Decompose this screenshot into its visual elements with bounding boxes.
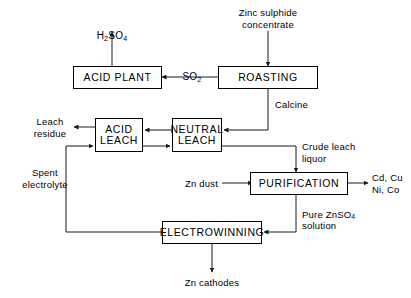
process-box-roasting[interactable]: ROASTING <box>218 66 318 89</box>
process-label-neutral-leach: NEUTRAL LEACH <box>170 124 223 147</box>
h2so4-sub-4: 4 <box>123 34 127 43</box>
stream-label-spent-electrolyte: Spent electrolyte <box>22 167 68 190</box>
stream-label-h2so4: H2SO4 <box>97 18 128 42</box>
h2so4-sub-2: 2 <box>104 34 108 43</box>
stream-label-crude-leach-liquor: Crude leach liquor <box>302 141 355 164</box>
process-label-acid-plant: ACID PLANT <box>84 72 152 83</box>
process-box-acid-plant[interactable]: ACID PLANT <box>73 66 162 89</box>
connector-purification-to-electrowinning <box>264 194 296 232</box>
connector-neutralleach-to-purification <box>222 146 296 172</box>
stream-label-calcine: Calcine <box>275 99 308 111</box>
stream-label-pure-znso4-solution: Pure ZnSO4 solution <box>302 197 355 232</box>
process-label-electrowinning: ELECTROWINNING <box>160 227 265 238</box>
pure-znso4-line2: solution <box>302 220 336 231</box>
stream-label-feed: Zinc sulphide concentrate <box>239 7 298 30</box>
process-box-electrowinning[interactable]: ELECTROWINNING <box>162 221 262 244</box>
process-label-acid-leach: ACID LEACH <box>100 124 138 147</box>
stream-label-zn-dust: Zn dust <box>185 178 218 190</box>
process-flow-diagram: ACID PLANT ROASTING ACID LEACH NEUTRAL L… <box>0 0 411 298</box>
znso4-sub-4: 4 <box>351 213 355 220</box>
process-box-purification[interactable]: PURIFICATION <box>250 172 348 195</box>
process-label-roasting: ROASTING <box>238 72 298 83</box>
stream-label-zn-cathodes: Zn cathodes <box>185 277 239 289</box>
so2-sub-2: 2 <box>197 75 201 84</box>
stream-label-impurities: Cd, Cu Ni, Co <box>372 172 403 195</box>
stream-label-leach-residue: Leach residue <box>34 116 67 139</box>
h2so4-so: SO <box>108 30 123 41</box>
process-box-neutral-leach[interactable]: NEUTRAL LEACH <box>172 118 222 152</box>
stream-label-so2: SO2 <box>182 59 201 83</box>
so2-text: SO <box>182 71 197 82</box>
pure-znso4-text: Pure ZnSO <box>302 209 351 220</box>
connector-electrowinning-to-acidleach-recycle <box>66 146 162 232</box>
process-box-acid-leach[interactable]: ACID LEACH <box>95 118 143 152</box>
process-label-purification: PURIFICATION <box>259 178 340 189</box>
connector-roasting-to-neutralleach <box>224 88 268 130</box>
